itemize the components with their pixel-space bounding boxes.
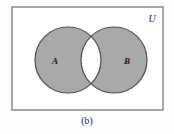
set-b-label: B — [123, 56, 130, 66]
set-a-label: A — [51, 56, 58, 66]
universal-set-label: U — [148, 13, 156, 24]
venn-diagram-figure: A B U (b) — [0, 0, 174, 134]
figure-caption: (b) — [0, 116, 174, 126]
venn-diagram-canvas: A B U — [0, 0, 174, 134]
